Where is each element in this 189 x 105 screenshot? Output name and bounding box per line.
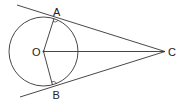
radius-oa <box>44 19 55 52</box>
label-a: A <box>53 6 61 18</box>
point-o <box>43 51 45 53</box>
tangent-line-cb <box>20 52 165 98</box>
label-c: C <box>168 46 176 58</box>
geometry-diagram: A B O C <box>0 0 189 105</box>
label-b: B <box>53 89 60 101</box>
label-o: O <box>32 46 41 58</box>
radius-ob <box>44 52 53 86</box>
